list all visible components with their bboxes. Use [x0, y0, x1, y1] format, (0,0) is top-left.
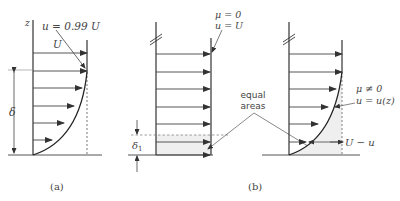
panel-a: z u = 0.99 U U δ (a) [8, 18, 102, 192]
edge-velocity-label: u = 0.99 U [42, 20, 101, 32]
inviscid-pointer-line [212, 30, 222, 52]
panel-b-inviscid: μ = 0 u = U δ1 [128, 9, 244, 172]
inviscid-viscosity-label: μ = 0 [215, 9, 241, 20]
velocity-profile-curve [33, 72, 87, 155]
panel-b-viscous: μ ≠ 0 u = u(z) U − u [262, 22, 395, 155]
viscous-velocity-label: u = u(z) [356, 95, 395, 106]
boundary-layer-thickness-label: δ [9, 106, 16, 119]
caption-b: (b) [248, 181, 262, 192]
freestream-label: U [53, 38, 63, 50]
velocity-deficit-label: U − u [345, 137, 375, 148]
equal-areas-pointer-left [208, 113, 254, 149]
displacement-thickness-label: δ1 [132, 140, 143, 153]
equal-areas-label-line2: areas [241, 101, 266, 111]
viscous-viscosity-label: μ ≠ 0 [356, 83, 382, 94]
boundary-layer-diagram: z u = 0.99 U U δ (a) μ = 0 u = U δ1 [0, 0, 400, 201]
displacement-shaded-area [156, 135, 211, 155]
caption-a: (a) [50, 181, 64, 192]
z-axis-label: z [24, 18, 30, 28]
inviscid-velocity-label: u = U [215, 20, 244, 31]
velocity-deficit-area [289, 72, 342, 155]
equal-areas-label-line1: equal [241, 90, 266, 100]
